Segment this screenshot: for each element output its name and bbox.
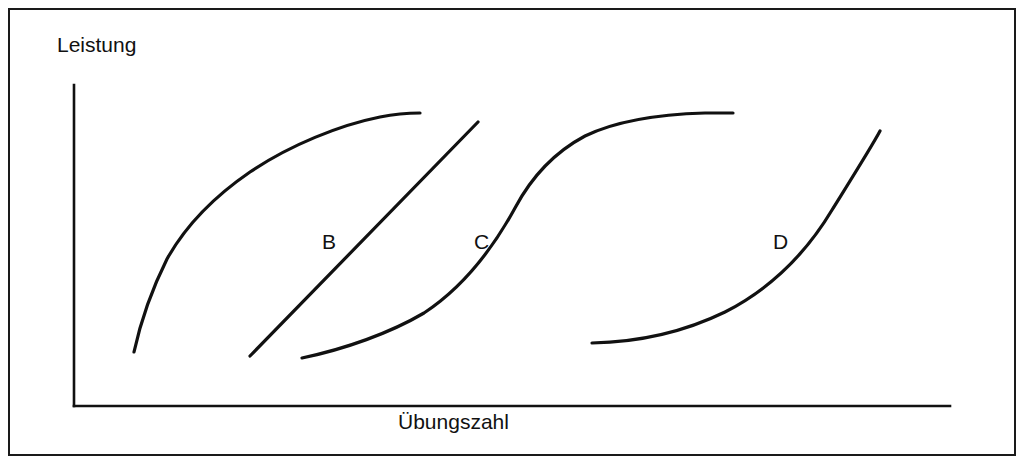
- curve-label-c: C: [474, 231, 489, 252]
- screenshot-root: Leistung Übungszahl B C D: [0, 0, 1026, 466]
- y-axis-label: Leistung: [57, 34, 136, 55]
- figure-frame: [8, 8, 1016, 456]
- curve-label-b: B: [322, 231, 336, 252]
- x-axis-label: Übungszahl: [398, 411, 509, 432]
- curve-label-d: D: [773, 231, 788, 252]
